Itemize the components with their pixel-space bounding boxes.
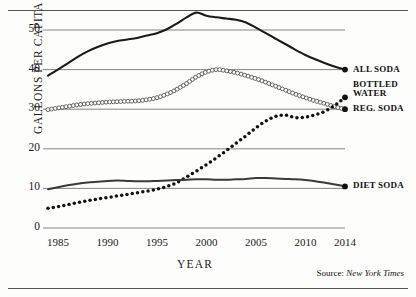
x-tick-2010: 2010 — [285, 236, 325, 248]
series-label-diet-soda: DIET SODA — [353, 181, 404, 190]
y-tick-20: 20 — [12, 141, 40, 153]
series-label-all-soda: ALL SODA — [353, 65, 400, 74]
x-tick-1985: 1985 — [38, 236, 78, 248]
source-note: Source: New York Times — [317, 268, 404, 278]
plot-area — [0, 0, 416, 297]
source-prefix: Source: — [317, 268, 345, 278]
source-name: New York Times — [346, 268, 404, 278]
y-tick-10: 10 — [12, 180, 40, 192]
series-label-reg-soda: REG. SODA — [353, 104, 404, 113]
series-diet-soda — [48, 178, 348, 189]
series-all-soda — [48, 13, 348, 76]
chart-figure: GALLONS PER CAPITA 01020304050 198519901… — [0, 0, 416, 297]
x-tick-1990: 1990 — [87, 236, 127, 248]
series-bottled-water — [46, 94, 348, 210]
series-reg-soda — [46, 68, 348, 112]
y-tick-40: 40 — [12, 62, 40, 74]
x-tick-2014: 2014 — [325, 236, 365, 248]
series-label-bottled-water: BOTTLED WATER — [353, 80, 398, 99]
y-tick-50: 50 — [12, 22, 40, 34]
x-tick-1995: 1995 — [137, 236, 177, 248]
x-tick-2000: 2000 — [186, 236, 226, 248]
y-tick-0: 0 — [12, 220, 40, 232]
y-tick-30: 30 — [12, 101, 40, 113]
x-tick-2005: 2005 — [236, 236, 276, 248]
